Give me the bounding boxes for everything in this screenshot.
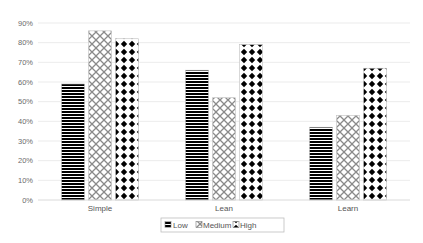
legend-swatch-medium	[196, 222, 202, 228]
y-tick-label: 70%	[18, 58, 33, 67]
y-tick-label: 40%	[18, 117, 33, 126]
legend-swatch-high	[233, 222, 239, 228]
bar-high-lean	[240, 45, 263, 200]
bar-medium-lean	[213, 98, 236, 200]
x-category-label: Lean	[215, 204, 233, 213]
legend-label-medium: Medium	[203, 221, 232, 230]
bar-medium-learn	[337, 115, 360, 200]
legend: LowMediumHigh	[161, 218, 284, 232]
legend-label-low: Low	[173, 221, 188, 230]
bar-low-lean	[186, 70, 209, 200]
bar-low-simple	[62, 84, 85, 200]
legend-swatch-low	[165, 222, 171, 228]
y-axis-ticks: 0%10%20%30%40%50%60%70%80%90%	[18, 19, 33, 205]
y-tick-label: 30%	[18, 137, 33, 146]
y-tick-label: 50%	[18, 97, 33, 106]
x-category-label: Learn	[338, 204, 358, 213]
y-tick-label: 60%	[18, 78, 33, 87]
bar-chart: 0%10%20%30%40%50%60%70%80%90% SimpleLean…	[0, 0, 423, 243]
x-category-label: Simple	[88, 204, 113, 213]
bar-high-simple	[116, 39, 139, 200]
x-axis: SimpleLeanLearn	[38, 200, 410, 213]
y-tick-label: 90%	[18, 19, 33, 28]
bar-high-learn	[364, 68, 387, 200]
bar-low-learn	[310, 127, 333, 200]
legend-label-high: High	[240, 221, 256, 230]
y-tick-label: 80%	[18, 38, 33, 47]
y-tick-label: 20%	[18, 156, 33, 165]
y-tick-label: 10%	[18, 176, 33, 185]
bars	[62, 31, 387, 200]
y-tick-label: 0%	[22, 196, 33, 205]
bar-medium-simple	[89, 31, 112, 200]
